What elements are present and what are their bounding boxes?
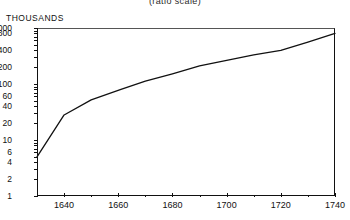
- x-axis-tick: [335, 193, 336, 197]
- y-axis-minor-tick: [34, 145, 37, 146]
- x-axis-tick: [281, 193, 282, 197]
- y-axis-minor-tick: [34, 31, 37, 32]
- y-axis-tick: [34, 28, 38, 29]
- y-axis-tick-label: 100: [0, 79, 12, 89]
- x-axis-tick-label: 1680: [162, 200, 182, 210]
- y-axis-tick: [34, 84, 38, 85]
- x-axis-minor-tick: [145, 195, 146, 198]
- x-axis-tick: [172, 193, 173, 197]
- x-axis-minor-tick: [200, 195, 201, 198]
- y-axis-minor-tick: [34, 101, 37, 102]
- y-axis-tick-label: 1: [7, 191, 12, 201]
- y-axis-minor-tick: [34, 37, 37, 38]
- y-axis-tick-label: 200: [0, 62, 12, 72]
- y-axis-tick: [34, 33, 38, 34]
- y-axis-tick: [34, 162, 38, 163]
- y-axis-minor-tick: [34, 149, 37, 150]
- x-axis-minor-tick: [308, 195, 309, 198]
- y-axis-minor-tick: [34, 57, 37, 58]
- x-axis-tick: [227, 193, 228, 197]
- y-axis-minor-tick: [34, 157, 37, 158]
- series-population-line: [37, 33, 335, 156]
- x-axis-tick-label: 1640: [54, 200, 74, 210]
- y-axis-tick-label: 2: [7, 174, 12, 184]
- y-axis-tick-label: 6: [7, 147, 12, 157]
- y-axis-tick: [34, 140, 38, 141]
- y-axis-tick-label: 400: [0, 45, 12, 55]
- y-axis-tick: [34, 123, 38, 124]
- y-axis-minor-tick: [34, 89, 37, 90]
- y-axis-minor-tick: [34, 45, 37, 46]
- y-axis-tick: [34, 179, 38, 180]
- x-axis-minor-tick: [91, 195, 92, 198]
- x-axis-tick: [64, 193, 65, 197]
- y-axis-tick-label: 20: [3, 118, 12, 128]
- y-axis-minor-tick: [34, 169, 37, 170]
- x-axis-minor-tick: [37, 195, 38, 198]
- y-axis-minor-tick: [34, 87, 37, 88]
- x-axis-tick-label: 1720: [271, 200, 291, 210]
- x-axis-tick-label: 1740: [325, 200, 345, 210]
- data-line-series: [37, 28, 335, 196]
- x-axis-minor-tick: [254, 195, 255, 198]
- y-axis-minor-tick: [34, 143, 37, 144]
- y-axis-minor-tick: [34, 93, 37, 94]
- y-axis-tick-label: 800: [0, 28, 12, 38]
- chart-root: (ratio scale) THOUSANDS 1,00080040020010…: [0, 0, 350, 220]
- y-axis-tick-label: 10: [3, 135, 12, 145]
- plot-area: [37, 28, 335, 196]
- x-axis-tick-label: 1700: [217, 200, 237, 210]
- chart-subtitle: (ratio scale): [0, 0, 350, 6]
- x-axis-tick: [118, 193, 119, 197]
- y-axis-tick: [34, 96, 38, 97]
- y-axis-units-label: THOUSANDS: [6, 13, 64, 23]
- y-axis-tick-label: 60: [3, 91, 12, 101]
- y-axis-tick-label: 4: [7, 157, 12, 167]
- y-axis-minor-tick: [34, 113, 37, 114]
- y-axis-tick: [34, 67, 38, 68]
- y-axis-tick-label: 40: [3, 101, 12, 111]
- y-axis-tick: [34, 50, 38, 51]
- y-axis-minor-tick: [34, 40, 37, 41]
- x-axis-tick-label: 1660: [108, 200, 128, 210]
- y-axis-tick: [34, 152, 38, 153]
- y-axis-tick: [34, 106, 38, 107]
